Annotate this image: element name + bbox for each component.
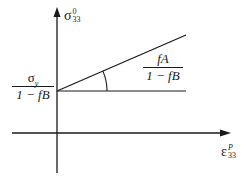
- y-axis-symbol: σ: [64, 8, 72, 23]
- slope-angle-arc: [103, 71, 107, 91]
- intercept-numerator: σy: [26, 71, 41, 85]
- x-axis-subscript: 33: [228, 152, 236, 160]
- intercept-numerator-symbol: σ: [28, 70, 35, 85]
- slope-denominator: 1 − fB: [144, 69, 181, 83]
- intercept-denominator: 1 − fB: [14, 88, 51, 102]
- intercept-label: σy 1 − fB: [12, 71, 54, 102]
- x-axis-arrowhead-icon: [220, 130, 231, 137]
- slope-numerator: fA: [155, 52, 171, 66]
- slope-label: fA 1 − fB: [143, 52, 183, 83]
- y-axis-subscript: 33: [73, 16, 81, 24]
- y-axis-arrowhead-icon: [54, 7, 61, 17]
- y-axis-label: σ033: [64, 7, 81, 24]
- x-axis-symbol: ε: [221, 144, 227, 159]
- x-axis-label: εP33: [221, 143, 236, 160]
